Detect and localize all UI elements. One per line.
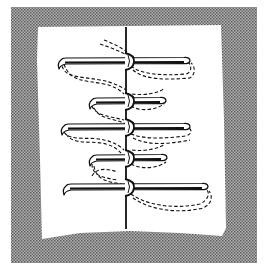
stitch-illustration bbox=[0, 0, 267, 272]
stitch-diagram: Stitch diagram bbox=[0, 0, 267, 272]
